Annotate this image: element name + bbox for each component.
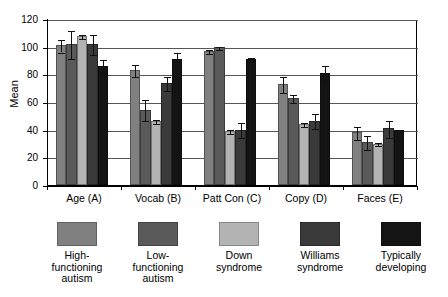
error-bar-cap [132, 65, 139, 66]
error-bar [61, 40, 62, 52]
error-bar-cap [68, 59, 75, 60]
error-bar-cap [238, 123, 245, 124]
error-bar-cap [238, 138, 245, 139]
error-bar-cap [322, 66, 329, 67]
error-bar [71, 31, 72, 59]
bar [288, 98, 299, 185]
error-bar-cap [58, 53, 65, 54]
grouped-bar-chart: Mean 020406080100120 Age (A)Vocab (B)Pat… [0, 0, 448, 297]
bar [87, 44, 98, 185]
legend-label: Typically developing [358, 250, 444, 273]
bar [130, 70, 141, 185]
legend-swatch [138, 222, 178, 246]
error-bar-cap [364, 136, 371, 137]
error-bar-cap [164, 91, 171, 92]
error-bar [93, 35, 94, 56]
bar [278, 84, 289, 185]
legend-swatch [57, 222, 97, 246]
error-bar-cap [90, 35, 97, 36]
error-bar-cap [174, 53, 181, 54]
error-bar [103, 60, 104, 74]
error-bar-cap [142, 100, 149, 101]
error-bar-cap [280, 93, 287, 94]
y-tick-label: 100 [4, 43, 38, 53]
bar [373, 144, 384, 186]
error-bar-cap [312, 114, 319, 115]
x-tick-mark [47, 186, 48, 190]
chart-legend: High- functioning autismLow- functioning… [0, 214, 448, 297]
x-tick-mark [269, 186, 270, 190]
error-bar [367, 136, 368, 150]
y-tick-label: 40 [4, 126, 38, 136]
error-bar-cap [153, 120, 160, 121]
x-axis-line [47, 186, 418, 187]
error-bar-cap [58, 40, 65, 41]
legend-item[interactable]: Low- functioning autism [115, 214, 201, 285]
error-bar-cap [164, 77, 171, 78]
y-tick-label: 0 [4, 181, 38, 191]
x-category-label: Patt Con (C) [195, 192, 269, 204]
error-bar-cap [227, 134, 234, 135]
error-bar [357, 127, 358, 139]
error-bar-cap [364, 150, 371, 151]
error-bar-cap [132, 77, 139, 78]
error-bar [177, 53, 178, 67]
x-tick-mark [343, 186, 344, 190]
error-bar-cap [100, 60, 107, 61]
legend-item[interactable]: Williams syndrome [277, 214, 363, 273]
error-bar-cap [248, 62, 255, 63]
bar [151, 121, 162, 185]
bar [204, 51, 215, 185]
error-bar-cap [290, 95, 297, 96]
error-bar-cap [354, 140, 361, 141]
bar [172, 59, 183, 185]
error-bar-cap [206, 50, 213, 51]
error-bar [389, 121, 390, 138]
legend-item[interactable]: Down syndrome [196, 214, 282, 273]
x-category-label: Copy (D) [269, 192, 343, 204]
x-category-label: Vocab (B) [121, 192, 195, 204]
legend-label: Down syndrome [196, 250, 282, 273]
plot-area [47, 20, 417, 186]
bar [214, 47, 225, 185]
error-bar-cap [79, 39, 86, 40]
legend-label: Williams syndrome [277, 250, 363, 273]
bar [309, 121, 320, 185]
error-bar-cap [322, 82, 329, 83]
legend-item[interactable]: Typically developing [358, 214, 444, 273]
error-bar-cap [174, 67, 181, 68]
bar [66, 44, 77, 185]
error-bar-cap [301, 127, 308, 128]
y-tick-label: 80 [4, 70, 38, 80]
error-bar-cap [386, 138, 393, 139]
error-bar-cap [375, 146, 382, 147]
error-bar-cap [100, 74, 107, 75]
error-bar-cap [216, 47, 223, 48]
error-bar-cap [386, 121, 393, 122]
legend-swatch [381, 222, 421, 246]
legend-swatch [300, 222, 340, 246]
bar [225, 131, 236, 185]
error-bar [325, 66, 326, 81]
gridline [48, 20, 418, 21]
error-bar [135, 65, 136, 77]
error-bar-cap [227, 130, 234, 131]
error-bar [241, 123, 242, 138]
bar [98, 66, 109, 185]
error-bar-cap [90, 55, 97, 56]
x-category-label: Age (A) [47, 192, 121, 204]
error-bar-cap [206, 54, 213, 55]
x-tick-mark [417, 186, 418, 190]
y-tick-label: 120 [4, 15, 38, 25]
legend-item[interactable]: High- functioning autism [34, 214, 120, 285]
legend-swatch [219, 222, 259, 246]
x-tick-mark [121, 186, 122, 190]
bar [161, 83, 172, 185]
x-tick-mark [195, 186, 196, 190]
bar [56, 45, 67, 185]
error-bar [293, 95, 294, 103]
error-bar [315, 114, 316, 129]
y-axis-line [47, 19, 48, 187]
bar [246, 59, 257, 185]
error-bar-cap [290, 103, 297, 104]
